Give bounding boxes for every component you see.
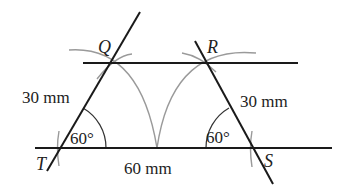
point-label-t: T: [36, 154, 48, 174]
angle-label-s: 60°: [206, 128, 230, 147]
point-label-s: S: [264, 151, 273, 171]
trapezium-construction-diagram: Q R T S 30 mm 30 mm 60 mm 60° 60°: [0, 0, 347, 196]
point-label-r: R: [206, 37, 218, 57]
angle-label-t: 60°: [70, 129, 94, 148]
point-label-q: Q: [98, 37, 111, 57]
length-label-ts: 60 mm: [124, 159, 172, 178]
length-label-rs: 30 mm: [240, 92, 288, 111]
construction-arcs: [58, 50, 257, 167]
length-label-tq: 30 mm: [22, 88, 70, 107]
